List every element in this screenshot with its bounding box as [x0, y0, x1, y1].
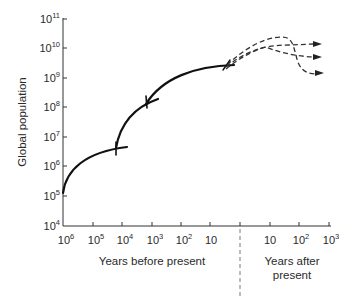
svg-text:102: 102 [293, 232, 309, 246]
svg-text:103: 103 [323, 232, 339, 246]
x-axis-title-after-line1: Years after [264, 255, 319, 267]
x-tick-labels-before: 106 105 104 103 102 10 [58, 232, 217, 246]
svg-text:108: 108 [44, 99, 60, 113]
projection-curves [226, 37, 316, 74]
arrow-b-icon [313, 54, 322, 60]
svg-text:1010: 1010 [39, 40, 60, 54]
arrow-c-icon [315, 70, 324, 76]
historical-curves [63, 60, 234, 193]
svg-text:105: 105 [44, 188, 60, 202]
svg-text:105: 105 [88, 232, 104, 246]
svg-text:103: 103 [147, 232, 163, 246]
x-axis-title-before: Years before present [99, 255, 206, 267]
curve-toolmaking [63, 147, 127, 193]
svg-text:104: 104 [44, 218, 60, 232]
svg-text:10: 10 [264, 234, 276, 246]
arrowheads [313, 41, 324, 76]
svg-text:104: 104 [117, 232, 133, 246]
curve-agricultural [116, 99, 158, 148]
curve-industrial [146, 65, 234, 104]
svg-text:109: 109 [44, 70, 60, 84]
svg-text:1011: 1011 [40, 11, 60, 25]
projection-b [226, 47, 314, 69]
population-chart: 1011 1010 109 108 107 106 105 104 106 10… [0, 0, 353, 299]
y-axis-title: Global population [16, 77, 28, 167]
arrow-a-icon [313, 41, 322, 47]
svg-text:10: 10 [205, 234, 217, 246]
x-tick-labels-after: 10 102 103 [264, 232, 339, 246]
svg-text:106: 106 [44, 158, 60, 172]
svg-text:102: 102 [176, 232, 192, 246]
y-tick-labels: 1011 1010 109 108 107 106 105 104 [39, 11, 60, 232]
svg-text:107: 107 [44, 129, 60, 143]
axes [63, 18, 331, 226]
svg-text:106: 106 [58, 232, 74, 246]
x-axis-title-after-line2: present [273, 269, 312, 281]
